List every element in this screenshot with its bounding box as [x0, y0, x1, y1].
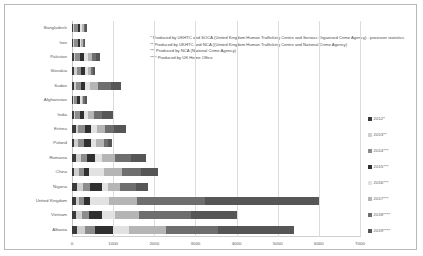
- legend-item[interactable]: 2015***: [368, 157, 390, 173]
- bar-segment: [136, 183, 148, 191]
- legend-label: 2018****: [374, 212, 391, 217]
- legend-swatch: [368, 149, 372, 153]
- bar-row: United Kingdom: [72, 194, 360, 208]
- chart-frame: * Produced by UKHTC and SOCA (United Kin…: [4, 4, 417, 250]
- bar-row: China: [72, 165, 360, 179]
- legend-label: 2014***: [374, 148, 389, 153]
- legend-swatch: [368, 181, 372, 185]
- bar-row: Afghanistan: [72, 93, 360, 107]
- stacked-bar: [72, 96, 87, 104]
- legend-swatch: [368, 117, 372, 121]
- legend-item[interactable]: 2013**: [368, 125, 390, 141]
- category-label: China: [56, 165, 67, 179]
- stacked-bar: [72, 24, 87, 32]
- category-label: Vietnam: [51, 208, 67, 222]
- category-label: Iran: [59, 36, 67, 50]
- bar-segment: [93, 67, 95, 75]
- bar-segment: [141, 168, 157, 176]
- bar-segment: [95, 154, 102, 162]
- legend-item[interactable]: 2014***: [368, 141, 390, 157]
- bar-segment: [139, 211, 191, 219]
- bar-row: Pakistan: [72, 50, 360, 64]
- stacked-bar: [72, 125, 126, 133]
- category-label: Eritrea: [54, 122, 67, 136]
- category-label: India: [57, 108, 67, 122]
- bar-segment: [109, 197, 138, 205]
- stacked-bar: [72, 111, 113, 119]
- category-label: Bangladesh: [44, 21, 67, 35]
- x-tick-label: 6000: [314, 241, 324, 246]
- stacked-bar: [72, 67, 95, 75]
- legend-swatch: [368, 213, 372, 217]
- bar-row: Slovakia: [72, 64, 360, 78]
- bar-segment: [218, 226, 294, 234]
- bar-segment: [90, 183, 102, 191]
- category-label: Romania: [49, 151, 67, 165]
- stacked-bar: [72, 211, 237, 219]
- stacked-bar: [72, 168, 158, 176]
- bar-segment: [120, 183, 136, 191]
- bar-row: Poland: [72, 136, 360, 150]
- bar-segment: [115, 154, 131, 162]
- legend-label: 2019****: [374, 228, 391, 233]
- x-tick-label: 1000: [108, 241, 118, 246]
- bar-segment: [89, 211, 102, 219]
- bar-segment: [108, 139, 112, 147]
- bar-segment: [111, 82, 122, 90]
- bar-segment: [90, 82, 98, 90]
- bar-segment: [205, 197, 319, 205]
- bar-segment: [83, 183, 90, 191]
- bar-segment: [114, 125, 126, 133]
- bar-row: Bangladesh: [72, 21, 360, 35]
- legend-label: 2016***: [374, 180, 389, 185]
- category-label: Pakistan: [50, 50, 67, 64]
- stacked-bar: [72, 183, 148, 191]
- bar-segment: [129, 226, 166, 234]
- legend-item[interactable]: 2019****: [368, 221, 390, 237]
- bar-segment: [105, 125, 114, 133]
- bar-row: Nigeria: [72, 180, 360, 194]
- stacked-bar: [72, 197, 319, 205]
- bar-segment: [104, 168, 122, 176]
- stacked-bar: [72, 82, 121, 90]
- bar-segment: [94, 111, 102, 119]
- legend-swatch: [368, 197, 372, 201]
- legend-label: 2015***: [374, 164, 389, 169]
- bar-segment: [98, 82, 110, 90]
- bar-segment: [113, 226, 129, 234]
- legend-swatch: [368, 133, 372, 137]
- legend-item[interactable]: 2018****: [368, 205, 390, 221]
- legend-item[interactable]: 2016***: [368, 173, 390, 189]
- bar-segment: [77, 226, 85, 234]
- bar-segment: [77, 183, 84, 191]
- bar-segment: [85, 96, 86, 104]
- bar-segment: [102, 211, 115, 219]
- bar-segment: [97, 125, 104, 133]
- legend-swatch: [368, 229, 372, 233]
- bar-segment: [84, 197, 91, 205]
- stacked-bar: [72, 154, 146, 162]
- stacked-bar: [72, 139, 112, 147]
- category-label: Albania: [52, 223, 67, 237]
- category-label: Slovakia: [50, 64, 67, 78]
- x-tick-label: 3000: [191, 241, 201, 246]
- legend-swatch: [368, 165, 372, 169]
- bar-segment: [102, 154, 115, 162]
- bar-row: Romania: [72, 151, 360, 165]
- bar-segment: [131, 154, 146, 162]
- legend-item[interactable]: 2012*: [368, 109, 390, 125]
- gridline: [360, 21, 361, 237]
- category-label: Afghanistan: [44, 93, 67, 107]
- bar-segment: [108, 183, 120, 191]
- bar-segment: [122, 168, 141, 176]
- bar-row: Iran: [72, 36, 360, 50]
- bar-segment: [96, 53, 100, 61]
- bar-row: India: [72, 108, 360, 122]
- legend-item[interactable]: 2017***: [368, 189, 390, 205]
- category-label: Poland: [53, 136, 67, 150]
- bar-segment: [85, 226, 96, 234]
- bar-segment: [191, 211, 237, 219]
- bar-row: Vietnam: [72, 208, 360, 222]
- bar-segment: [89, 168, 105, 176]
- x-tick-label: 5000: [273, 241, 283, 246]
